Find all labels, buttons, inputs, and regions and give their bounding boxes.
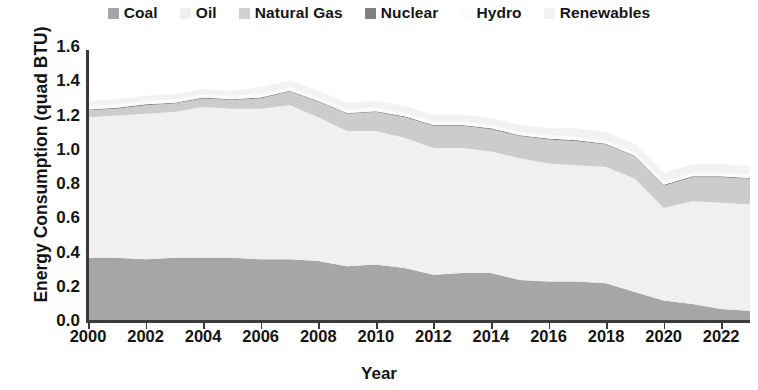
x-tick-label: 2020 — [645, 328, 682, 345]
x-tick-mark — [318, 322, 320, 329]
chart-legend: CoalOilNatural GasNuclearHydroRenewables — [0, 1, 758, 25]
legend-label: Oil — [196, 5, 217, 21]
x-tick-label: 2022 — [703, 328, 740, 345]
plot-area — [88, 47, 750, 321]
legend-item[interactable]: Oil — [180, 5, 217, 21]
legend-item[interactable]: Hydro — [460, 5, 521, 21]
x-tick-label: 2012 — [415, 328, 452, 345]
x-tick-label: 2010 — [357, 328, 394, 345]
x-tick-mark — [433, 322, 435, 329]
y-tick-label: 0.8 — [34, 175, 80, 192]
legend-swatch-icon — [239, 8, 250, 19]
x-tick-label: 2004 — [185, 328, 222, 345]
legend-label: Renewables — [560, 5, 651, 21]
y-axis-tick-labels: 0.00.20.40.60.81.01.21.41.6 — [30, 47, 80, 321]
legend-swatch-icon — [180, 8, 191, 19]
y-tick-label: 1.4 — [34, 72, 80, 89]
y-tick-label: 1.6 — [34, 38, 80, 55]
x-tick-label: 2000 — [70, 328, 107, 345]
x-tick-mark — [203, 322, 205, 329]
y-tick-label: 1.2 — [34, 107, 80, 124]
legend-swatch-icon — [108, 8, 119, 19]
y-tick-label: 0.4 — [34, 244, 80, 261]
legend-swatch-icon — [365, 8, 376, 19]
y-tick-label: 1.0 — [34, 141, 80, 158]
legend-item[interactable]: Coal — [108, 5, 158, 21]
x-tick-mark — [261, 322, 263, 329]
legend-swatch-icon — [460, 8, 471, 19]
x-tick-mark — [664, 322, 666, 329]
x-tick-mark — [491, 322, 493, 329]
x-axis-tick-labels: 2000200220042006200820102012201420162018… — [88, 328, 750, 354]
x-tick-mark — [721, 322, 723, 329]
y-tick-label: 0.2 — [34, 278, 80, 295]
x-axis-line — [86, 320, 750, 323]
x-tick-mark — [376, 322, 378, 329]
x-tick-label: 2014 — [473, 328, 510, 345]
x-axis-title: Year — [0, 364, 758, 384]
x-tick-mark — [606, 322, 608, 329]
x-tick-label: 2016 — [530, 328, 567, 345]
x-tick-mark — [549, 322, 551, 329]
legend-label: Nuclear — [381, 5, 439, 21]
x-tick-mark — [146, 322, 148, 329]
legend-swatch-icon — [544, 8, 555, 19]
x-tick-label: 2002 — [127, 328, 164, 345]
legend-item[interactable]: Renewables — [544, 5, 651, 21]
area-series-group — [88, 47, 750, 321]
x-tick-label: 2008 — [300, 328, 337, 345]
x-tick-mark — [88, 322, 90, 329]
y-tick-label: 0.6 — [34, 209, 80, 226]
stacked-area-chart: CoalOilNatural GasNuclearHydroRenewables… — [0, 0, 758, 390]
legend-item[interactable]: Natural Gas — [239, 5, 343, 21]
x-tick-label: 2018 — [588, 328, 625, 345]
y-axis-line — [86, 50, 89, 322]
legend-label: Hydro — [476, 5, 521, 21]
legend-label: Coal — [124, 5, 158, 21]
legend-label: Natural Gas — [255, 5, 343, 21]
x-tick-label: 2006 — [242, 328, 279, 345]
legend-item[interactable]: Nuclear — [365, 5, 439, 21]
